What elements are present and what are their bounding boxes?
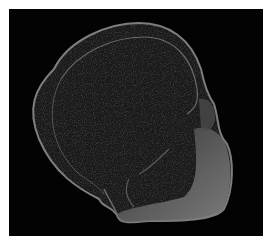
specimen-image-frame bbox=[9, 9, 263, 236]
specimen-scan bbox=[9, 9, 263, 236]
